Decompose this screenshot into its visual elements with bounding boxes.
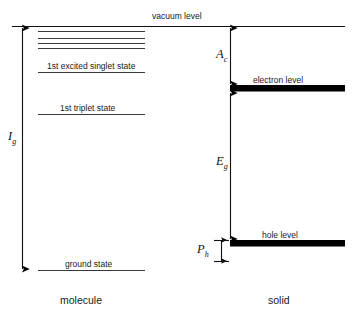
ground-state-label: ground state [65,260,112,269]
electron-affinity-symbol-sub: c [224,55,228,64]
vacuum-level-label: vacuum level [152,12,202,21]
hole-polarization-symbol-sub: h [205,250,209,259]
ionization-energy-symbol-sub: g [12,137,16,146]
electron-level-label: electron level [253,76,303,85]
energy-level-diagram-svg [0,0,355,319]
column-caption-molecule: molecule [60,295,102,306]
band-gap-symbol-sub: g [224,162,228,171]
hole-polarization-symbol-base: P [197,242,205,256]
column-caption-solid: solid [268,295,290,306]
band-gap-symbol-base: E [216,154,224,168]
first-triplet-label: 1st triplet state [60,104,115,113]
band-gap-symbol: Eg [216,155,228,171]
electron-level-bar [230,85,345,92]
electron-affinity-symbol: Ac [216,48,227,64]
diagram-canvas: vacuum level 1st excited singlet state 1… [0,0,355,319]
hole-polarization-symbol: Ph [197,243,209,259]
hole-level-bar [230,240,345,247]
electron-affinity-symbol-base: A [216,47,224,61]
ionization-energy-symbol: Ig [8,130,16,146]
hole-level-label: hole level [262,231,298,240]
first-excited-singlet-label: 1st excited singlet state [47,62,135,71]
